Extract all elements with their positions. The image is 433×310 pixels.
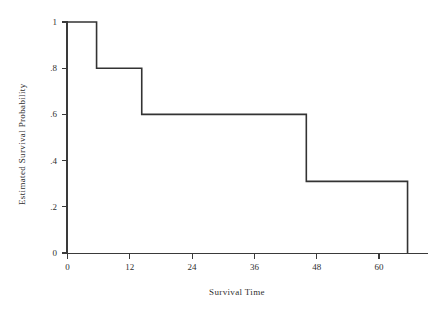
x-tick-label: 0	[65, 262, 70, 272]
x-tick-label: 36	[250, 262, 260, 272]
x-tick-label: 12	[125, 262, 134, 272]
survival-curve	[68, 22, 408, 253]
y-tick-label: 0	[53, 248, 58, 258]
x-axis-title: Survival Time	[209, 287, 265, 297]
y-tick-labels: 1 .8 .6 .4 .2 0	[50, 17, 57, 258]
chart-figure: Estimated Survival Probability Survival …	[0, 0, 433, 310]
x-tick-label: 48	[312, 262, 322, 272]
y-tick-label: 1	[53, 17, 58, 27]
x-tick-label: 24	[188, 262, 198, 272]
y-tick-label: .4	[50, 156, 57, 166]
survival-step-plot: Estimated Survival Probability Survival …	[0, 0, 433, 310]
x-tick-label: 60	[375, 262, 385, 272]
x-tick-labels: 0 12 24 36 48 60	[65, 262, 384, 272]
x-tick-group	[68, 254, 380, 259]
y-tick-label: .8	[50, 63, 57, 73]
y-tick-label: .6	[50, 109, 57, 119]
y-axis-title: Estimated Survival Probability	[17, 83, 27, 205]
y-tick-label: .2	[50, 202, 57, 212]
y-tick-group	[62, 22, 67, 253]
